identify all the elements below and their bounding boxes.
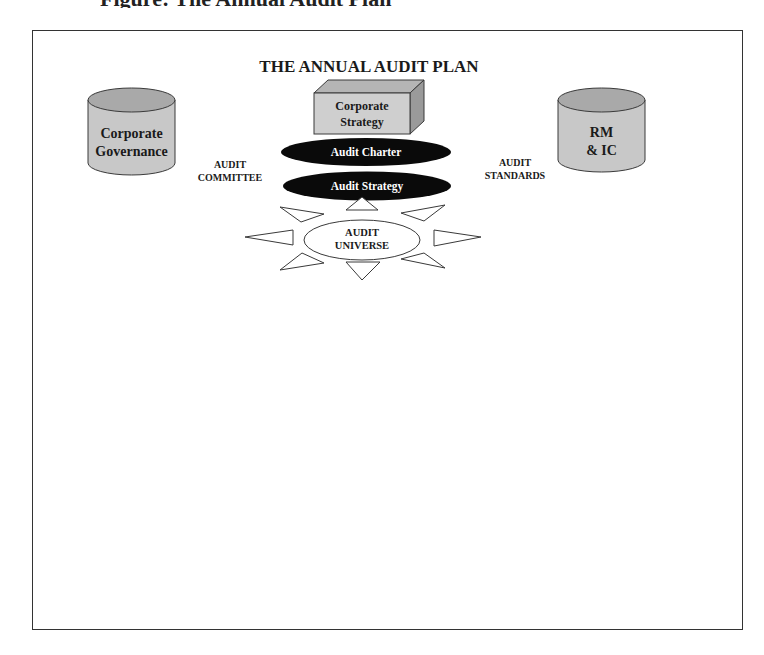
audit-strategy-ellipse: Audit Strategy [283, 172, 451, 201]
audit-charter-label: Audit Charter [331, 146, 402, 158]
ray-lower-left [280, 253, 324, 270]
ray-bottom [346, 262, 380, 280]
audit-universe-line2: UNIVERSE [335, 240, 389, 251]
corporate-governance-line2: Governance [95, 144, 167, 159]
audit-charter-ellipse: Audit Charter [281, 138, 451, 166]
ray-upper-right [401, 205, 445, 221]
corporate-governance-cylinder: Corporate Governance [88, 88, 175, 175]
audit-plan-diagram: THE ANNUAL AUDIT PLAN Corporate Strategy… [0, 0, 764, 655]
corporate-strategy-line2: Strategy [340, 115, 383, 129]
audit-standards-line1: AUDIT [499, 157, 532, 168]
audit-committee-line1: AUDIT [214, 159, 247, 170]
ray-left [245, 230, 293, 245]
ray-upper-left [280, 207, 324, 222]
audit-strategy-label: Audit Strategy [331, 180, 404, 193]
audit-standards-line2: STANDARDS [485, 170, 546, 181]
rm-ic-line1: RM [590, 125, 613, 140]
corporate-governance-line1: Corporate [100, 126, 162, 141]
audit-universe-line1: AUDIT [345, 227, 379, 238]
ray-lower-right [401, 253, 445, 268]
ray-right [434, 230, 481, 246]
diagram-title: THE ANNUAL AUDIT PLAN [259, 57, 479, 76]
corporate-strategy-line1: Corporate [335, 99, 389, 113]
audit-universe-ellipse: AUDIT UNIVERSE [304, 220, 420, 260]
rm-ic-cylinder: RM & IC [558, 88, 645, 172]
corporate-strategy-box: Corporate Strategy [314, 80, 424, 134]
audit-committee-line2: COMMITTEE [198, 172, 263, 183]
rm-ic-line2: & IC [586, 143, 617, 158]
